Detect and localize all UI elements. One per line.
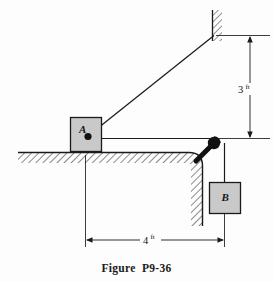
dimension-3ft: 3 ft [192, 36, 270, 139]
block-a-label: A [78, 123, 86, 135]
arrowhead-3ft-up [247, 36, 253, 43]
ledge-hatching [14, 150, 209, 230]
cable-a-to-wall [88, 36, 214, 137]
ledge-surface-line [18, 153, 203, 227]
arrowhead-4ft-left [86, 237, 93, 243]
pin-a-icon [84, 133, 91, 140]
figure-container: A B 3 ft [0, 0, 273, 282]
block-b: B [210, 183, 241, 214]
dimension-4ft: 4 ft [86, 155, 225, 247]
ground-ledge [14, 150, 209, 230]
figure-caption: Figure P9-36 [101, 262, 171, 274]
arrowhead-4ft-right [218, 237, 225, 243]
block-b-label: B [221, 191, 229, 203]
mechanics-diagram: A B 3 ft [0, 0, 273, 282]
dim-3ft-unit: ft [246, 83, 250, 91]
figure-caption-wrap: Figure P9-36 [0, 258, 273, 276]
pulley-strut [196, 146, 211, 161]
dim-4ft-value: 4 [143, 235, 149, 246]
arrowhead-3ft-down [247, 132, 253, 139]
dim-3ft-value: 3 [238, 84, 243, 95]
dim-4ft-unit: ft [151, 233, 155, 241]
